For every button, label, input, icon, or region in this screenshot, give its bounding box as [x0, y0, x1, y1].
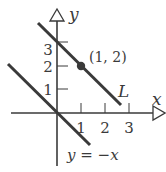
line-L-label: L	[117, 81, 129, 101]
point-1-2	[77, 62, 85, 70]
coordinate-diagram: y x 1 2 3 1 2 3 (1, 2) L y = −x	[0, 0, 166, 172]
line-neg-label: y = −x	[66, 146, 119, 164]
tick-label-y1: 1	[43, 81, 53, 99]
tick-label-y2: 2	[43, 58, 53, 76]
tick-label-x2: 2	[100, 119, 110, 137]
x-axis-label: x	[152, 89, 162, 109]
point-label: (1, 2)	[89, 49, 127, 65]
y-axis-arrow-icon	[50, 9, 64, 21]
tick-label-x3: 3	[124, 119, 134, 137]
tick-label-y3: 3	[43, 41, 53, 59]
tick-label-x1: 1	[76, 119, 86, 137]
y-axis-label: y	[68, 4, 79, 24]
